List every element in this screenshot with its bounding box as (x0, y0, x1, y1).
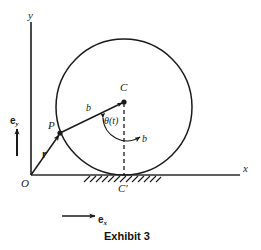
unit-vector-ex-letter: e (98, 214, 104, 225)
y-axis-label: y (28, 10, 33, 21)
particle-point-dot (57, 130, 62, 135)
radius-label-b-lower: b (142, 134, 147, 144)
position-vector-label-r: r (42, 149, 46, 160)
contact-label-c-prime: C' (118, 183, 128, 194)
exhibit-figure: y x O C C' P b b θ(t) r ey ex Exhibit 3 (0, 0, 261, 250)
x-axis-label: x (243, 163, 248, 174)
angle-label-theta-t: θ(t) (104, 116, 118, 126)
particle-label-p: P (48, 120, 55, 131)
radius-label-b-upper: b (86, 103, 91, 113)
center-label-c: C (120, 82, 127, 93)
unit-vector-ex-subscript: x (104, 219, 108, 227)
figure-caption: Exhibit 3 (104, 231, 150, 242)
figure-drawing (0, 0, 261, 250)
unit-vector-ex-label: ex (98, 210, 107, 226)
center-point-dot (121, 99, 126, 104)
origin-label: O (21, 178, 29, 189)
unit-vector-ey-label: ey (10, 111, 19, 127)
unit-vector-ey-subscript: y (16, 120, 19, 128)
unit-vector-ey-letter: e (10, 115, 16, 126)
